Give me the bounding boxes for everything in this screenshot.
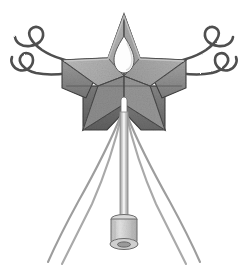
illustration-canvas: Faceted star ornament with curled wire t… — [0, 0, 248, 280]
spool-bottom-hole — [118, 242, 131, 247]
star-ornament-illustration — [0, 0, 248, 280]
